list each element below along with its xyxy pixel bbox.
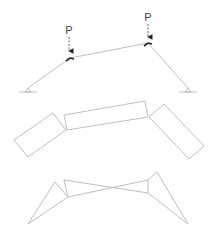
frame-member [148,43,188,88]
mechanism-mode-panel [28,172,188,224]
deformed-block [64,101,148,130]
mechanism-link [148,172,188,224]
rigid-joint [66,58,74,61]
mechanism-link [64,180,148,193]
frame-members [28,43,188,88]
pin-supports [19,88,197,92]
deformed-block [14,113,66,157]
frame-member [28,58,70,88]
frame-member [70,43,148,58]
deformed-blocks-panel [14,101,204,159]
load-label: P [144,11,151,23]
pin-support-icon [19,88,37,92]
diagram-canvas: PP [0,0,223,247]
loaded-frame-panel: PP [19,11,197,92]
mechanism-link [28,182,68,224]
load-label: P [65,24,72,36]
deformed-block [149,104,204,159]
pin-support-icon [179,88,197,92]
